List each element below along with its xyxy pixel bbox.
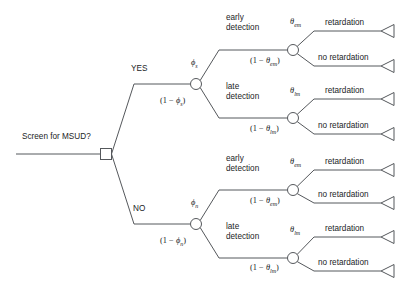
detection-line-2: detection <box>226 164 259 174</box>
detection-label-yes-early: early detection <box>226 13 259 33</box>
prob-label-theta-lm-no: θlm <box>290 225 300 238</box>
prob-label-one-minus-phi-n: (1 − ϕn) <box>160 236 186 249</box>
outcome-label-6: no retardation <box>318 190 369 200</box>
edge-no-branch <box>112 154 191 224</box>
prob-text-phi-n: ϕn <box>191 198 198 207</box>
edge-no-late-retardation <box>297 237 381 254</box>
detection-label-yes-late: late detection <box>226 82 259 102</box>
prob-text-one-minus-phi-n: (1 − <box>160 236 176 245</box>
outcome-label-8: no retardation <box>318 258 369 268</box>
prob-text-one-minus-theta-lm: (1 − <box>250 263 266 272</box>
terminal-node-6[interactable] <box>381 197 394 210</box>
terminal-node-5[interactable] <box>381 164 394 177</box>
outcome-label-7: retardation <box>325 224 364 234</box>
prob-label-phi-n: ϕn <box>191 198 198 211</box>
detection-line-2: detection <box>226 92 259 102</box>
edge-yes-early-retardation <box>297 31 381 46</box>
terminal-node-2[interactable] <box>381 60 394 73</box>
terminal-node-3[interactable] <box>381 93 394 106</box>
edge-no-early-retardation <box>297 170 381 186</box>
detection-line-1: late <box>226 222 259 232</box>
tree-graphics <box>0 0 410 300</box>
prob-text-one-minus-phi-s: (1 − <box>160 96 176 105</box>
edge-yes-late-retardation <box>297 99 381 114</box>
detection-line-1: early <box>226 154 259 164</box>
prob-text-phi-s: ϕs <box>191 58 198 67</box>
outcome-label-4: no retardation <box>318 121 369 131</box>
decision-tree-diagram: Screen for MSUD? YES NO ϕs (1 − ϕs) ϕn (… <box>0 0 410 300</box>
prob-label-phi-s: ϕs <box>191 58 198 71</box>
detection-line-2: detection <box>226 23 259 33</box>
chance-node-yes-early[interactable] <box>288 45 299 56</box>
outcome-label-5: retardation <box>325 157 364 167</box>
detection-label-no-late: late detection <box>226 222 259 242</box>
prob-text-theta-em: θem <box>290 157 301 166</box>
prob-text-one-minus-theta-lm: (1 − <box>250 124 266 133</box>
prob-label-theta-em-yes: θem <box>290 17 301 30</box>
branch-label-yes: YES <box>131 64 147 74</box>
prob-text-theta-lm: θlm <box>290 225 300 234</box>
detection-line-1: late <box>226 82 259 92</box>
prob-label-theta-lm-yes: θlm <box>290 86 300 99</box>
branch-label-no: NO <box>133 204 145 214</box>
prob-label-one-minus-theta-em-yes: (1 − θem) <box>250 56 280 69</box>
chance-node-no-early[interactable] <box>288 185 299 196</box>
edge-yes-branch <box>112 84 191 154</box>
detection-line-2: detection <box>226 232 259 242</box>
prob-text-one-minus-theta-em: (1 − <box>250 196 266 205</box>
prob-text-one-minus-theta-em: (1 − <box>250 56 266 65</box>
outcome-label-3: retardation <box>325 86 364 96</box>
prob-label-one-minus-theta-em-no: (1 − θem) <box>250 196 280 209</box>
root-question-label: Screen for MSUD? <box>22 132 91 142</box>
prob-text-theta-lm: θlm <box>290 86 300 95</box>
outcome-label-1: retardation <box>325 18 364 28</box>
terminal-node-1[interactable] <box>381 25 394 38</box>
prob-label-one-minus-theta-lm-no: (1 − θlm) <box>250 263 279 276</box>
outcome-label-2: no retardation <box>318 53 369 63</box>
terminal-node-8[interactable] <box>381 265 394 278</box>
prob-label-one-minus-phi-s: (1 − ϕs) <box>160 96 185 109</box>
chance-node-yes-late[interactable] <box>288 113 299 124</box>
terminal-node-4[interactable] <box>381 128 394 141</box>
prob-text-theta-em: θem <box>290 17 301 26</box>
decision-node-square[interactable] <box>101 149 112 160</box>
chance-node-no-late[interactable] <box>288 253 299 264</box>
prob-label-one-minus-theta-lm-yes: (1 − θlm) <box>250 124 279 137</box>
prob-label-theta-em-no: θem <box>290 157 301 170</box>
detection-label-no-early: early detection <box>226 154 259 174</box>
detection-line-1: early <box>226 13 259 23</box>
terminal-node-7[interactable] <box>381 231 394 244</box>
